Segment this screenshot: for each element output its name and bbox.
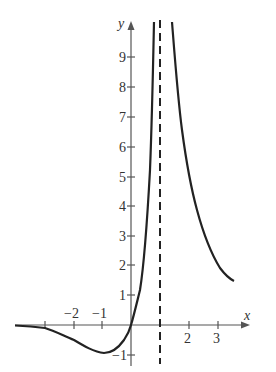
y-tick-label: 5 (119, 170, 126, 185)
x-axis-label: x (243, 308, 251, 323)
y-tick-label: 4 (119, 199, 126, 214)
y-tick-label: 8 (119, 80, 126, 95)
y-tick-label: 3 (119, 229, 126, 244)
function-graph: −2 −1 2 3 −1 1 2 3 4 5 6 7 8 9 y x (0, 0, 276, 372)
x-tick-label: 3 (213, 331, 220, 346)
x-tick-label: −1 (92, 306, 107, 321)
y-tick-label: 9 (119, 50, 126, 65)
y-tick-label: 7 (119, 110, 126, 125)
y-axis-arrow-icon (128, 21, 135, 30)
y-axis-label: y (116, 16, 125, 31)
y-tick-label: 6 (119, 140, 126, 155)
curve-right-branch (172, 22, 234, 281)
x-tick-label: −2 (64, 306, 79, 321)
y-tick-label: 2 (119, 258, 126, 273)
y-tick-label: 1 (119, 288, 126, 303)
x-tick-label: 2 (184, 331, 191, 346)
curve-left-branch (15, 22, 154, 353)
